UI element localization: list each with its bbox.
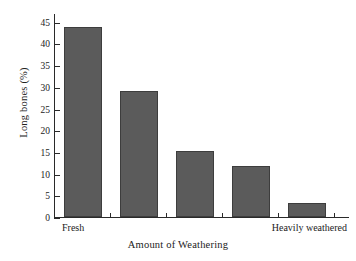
x-category-label-fresh: Fresh [62, 222, 84, 233]
x-axis-title: Amount of Weathering [0, 239, 356, 250]
y-tick-label: 30 [41, 83, 51, 93]
bar-heavily-weathered[interactable] [288, 203, 326, 217]
y-tick-label: 45 [41, 18, 51, 28]
y-tick-label: 5 [45, 191, 50, 201]
bar-category-3[interactable] [176, 151, 214, 217]
y-tick-label: 25 [41, 105, 51, 115]
y-tick-mark [54, 218, 60, 219]
bar-category-4[interactable] [232, 166, 270, 217]
bars-layer [54, 14, 349, 218]
y-tick-label: 10 [41, 170, 51, 180]
y-tick-label: 40 [41, 39, 51, 49]
y-tick-label: 20 [41, 126, 51, 136]
y-tick-label: 0 [45, 213, 50, 223]
y-axis-title: Long bones (%) [18, 33, 29, 173]
x-category-label-heavily-weathered: Heavily weathered [272, 222, 347, 233]
y-tick-label: 35 [41, 61, 51, 71]
plot-area: 0 5 10 15 20 25 30 35 [54, 14, 349, 218]
bar-category-2[interactable] [120, 91, 158, 217]
bar-fresh[interactable] [64, 27, 102, 217]
bar-chart-figure: Long bones (%) 0 5 10 15 20 25 [0, 0, 356, 261]
y-tick-label: 15 [41, 148, 51, 158]
